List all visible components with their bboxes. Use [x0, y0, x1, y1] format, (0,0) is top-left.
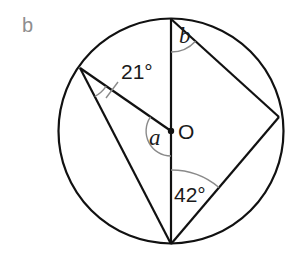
angle-label-b: b — [179, 23, 191, 48]
circle-geometry-diagram: 21° O a b 42° — [0, 0, 288, 265]
angle-label-42: 42° — [174, 183, 206, 206]
angle-label-21: 21° — [121, 60, 153, 83]
angle-arc-21 — [95, 86, 107, 96]
label-leader — [106, 82, 118, 98]
angle-label-a: a — [149, 125, 161, 150]
chord-left-bottom — [80, 68, 171, 244]
center-point — [168, 128, 174, 134]
center-label: O — [178, 120, 194, 143]
